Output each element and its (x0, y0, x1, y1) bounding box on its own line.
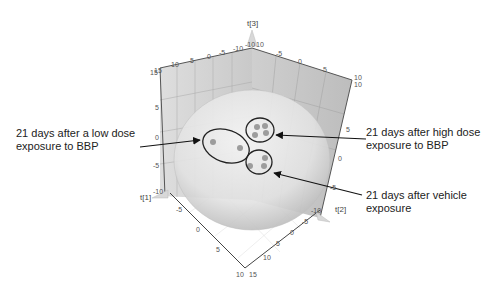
low-dose-annotation-line1: 21 days after a low dose (16, 127, 135, 140)
svg-text:5: 5 (155, 104, 159, 111)
point-vehicle (261, 163, 267, 169)
svg-text:-5: -5 (219, 49, 225, 56)
svg-text:15: 15 (249, 271, 257, 278)
svg-text:5: 5 (190, 57, 194, 64)
svg-text:-10: -10 (233, 45, 243, 52)
svg-text:10: 10 (354, 74, 362, 81)
svg-text:0: 0 (298, 58, 302, 65)
svg-text:10: 10 (263, 254, 271, 261)
point-vehicle (262, 155, 268, 161)
svg-text:0: 0 (196, 226, 200, 233)
point-low-dose (210, 139, 216, 145)
high-dose-annotation-line2: exposure to BBP (366, 139, 480, 152)
high-dose-annotation: 21 days after high dose exposure to BBP (366, 126, 480, 152)
vehicle-annotation-line1: 21 days after vehicle (366, 189, 467, 202)
svg-text:-5: -5 (176, 206, 182, 213)
svg-text:-10: -10 (245, 41, 255, 48)
point-high-dose (262, 123, 268, 129)
svg-text:5: 5 (346, 126, 350, 133)
svg-text:10: 10 (354, 81, 362, 88)
svg-text:5: 5 (323, 66, 327, 73)
svg-text:-10: -10 (311, 207, 321, 214)
svg-text:0: 0 (290, 229, 294, 236)
vehicle-annotation-line2: exposure (366, 202, 467, 215)
svg-text:0: 0 (338, 155, 342, 162)
point-low-dose (237, 145, 243, 151)
svg-text:10: 10 (256, 41, 264, 48)
confidence-ellipsoid (174, 90, 330, 230)
point-high-dose (252, 132, 258, 138)
svg-text:10: 10 (171, 61, 179, 68)
low-dose-annotation: 21 days after a low dose exposure to BBP (16, 127, 135, 153)
low-dose-annotation-line2: exposure to BBP (16, 140, 135, 153)
svg-text:0: 0 (207, 53, 211, 60)
svg-text:-10: -10 (153, 188, 163, 195)
point-high-dose (263, 130, 269, 136)
t2-axis-label: t[2] (335, 205, 346, 214)
point-high-dose (254, 124, 260, 130)
t1-axis-label: t[1] (140, 193, 151, 202)
svg-text:5: 5 (276, 240, 280, 247)
vehicle-annotation: 21 days after vehicle exposure (366, 189, 467, 215)
svg-text:-5: -5 (276, 50, 282, 57)
svg-text:-5: -5 (153, 162, 159, 169)
svg-text:-5: -5 (302, 218, 308, 225)
svg-text:0: 0 (155, 134, 159, 141)
svg-text:15: 15 (150, 69, 158, 76)
svg-text:5: 5 (216, 246, 220, 253)
svg-text:10: 10 (236, 271, 244, 278)
high-dose-annotation-line1: 21 days after high dose (366, 126, 480, 139)
t3-axis-label: t[3] (247, 19, 258, 28)
svg-text:-5: -5 (330, 184, 336, 191)
